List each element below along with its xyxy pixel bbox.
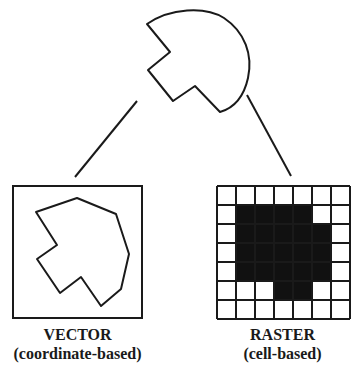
raster-cell-filled bbox=[236, 205, 256, 225]
raster-cell-filled bbox=[293, 205, 313, 225]
vector-polygon bbox=[36, 198, 129, 306]
raster-cell-filled bbox=[255, 243, 275, 263]
raster-grid bbox=[217, 186, 350, 319]
raster-cell-filled bbox=[236, 224, 256, 244]
vector-label: VECTOR (coordinate-based) bbox=[0, 325, 155, 363]
vector-subtitle: (coordinate-based) bbox=[0, 344, 155, 363]
raster-cell-filled bbox=[255, 224, 275, 244]
raster-subtitle: (cell-based) bbox=[205, 344, 359, 363]
raster-cell-filled bbox=[274, 243, 294, 263]
raster-cell-filled bbox=[236, 243, 256, 263]
raster-cell-filled bbox=[274, 281, 294, 301]
raster-cell-filled bbox=[293, 281, 313, 301]
raster-cell-filled bbox=[274, 262, 294, 282]
source-shape bbox=[147, 10, 249, 112]
raster-cell-filled bbox=[293, 262, 313, 282]
raster-cell-filled bbox=[255, 205, 275, 225]
vector-title: VECTOR bbox=[0, 325, 155, 344]
raster-cell-filled bbox=[312, 224, 332, 244]
raster-cell-filled bbox=[293, 224, 313, 244]
connector-left bbox=[75, 101, 137, 177]
raster-title: RASTER bbox=[205, 325, 359, 344]
raster-cell-filled bbox=[274, 224, 294, 244]
connector-right bbox=[247, 95, 291, 176]
raster-cell-filled bbox=[312, 262, 332, 282]
raster-cell-filled bbox=[293, 243, 313, 263]
raster-cell-filled bbox=[236, 262, 256, 282]
raster-cell-filled bbox=[274, 205, 294, 225]
raster-cell-filled bbox=[255, 262, 275, 282]
raster-cell-filled bbox=[312, 243, 332, 263]
vector-frame bbox=[13, 186, 142, 318]
raster-label: RASTER (cell-based) bbox=[205, 325, 359, 363]
